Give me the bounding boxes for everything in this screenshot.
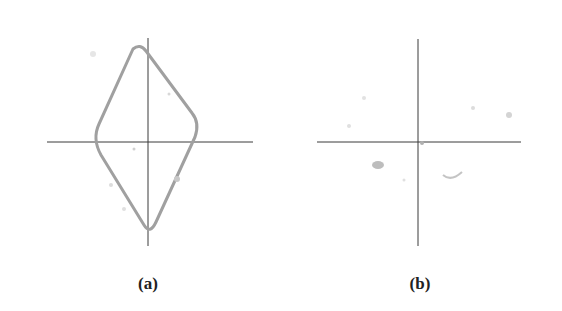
microscope-view-b xyxy=(299,20,539,264)
panel-label-a: (a) xyxy=(118,274,178,294)
panel-label-b: (b) xyxy=(390,274,450,294)
crosshair-b xyxy=(299,20,539,264)
microscope-view-a xyxy=(29,19,271,265)
crosshair-and-outline-a xyxy=(29,19,271,265)
